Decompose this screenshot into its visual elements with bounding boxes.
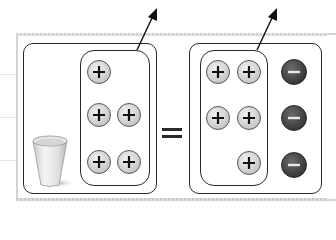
positive-charge-icon <box>237 106 261 130</box>
positive-charge-icon <box>87 60 111 84</box>
negative-charge-icon <box>281 59 307 85</box>
equals-sign <box>162 126 182 140</box>
positive-charge-icon <box>117 150 141 174</box>
positive-charge-icon <box>237 151 261 175</box>
positive-charge-icon <box>237 60 261 84</box>
positive-charge-icon <box>206 60 230 84</box>
negative-charge-icon <box>281 152 307 178</box>
positive-charge-icon <box>206 106 230 130</box>
cup-icon <box>30 133 76 189</box>
positive-charge-icon <box>117 103 141 127</box>
frame-bottom-border <box>16 198 327 201</box>
negative-charge-icon <box>281 105 307 131</box>
positive-charge-icon <box>87 150 111 174</box>
positive-charge-icon <box>87 103 111 127</box>
frame-top-border <box>16 33 327 36</box>
